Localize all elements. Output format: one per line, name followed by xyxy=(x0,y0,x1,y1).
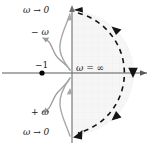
label-omega-to-zero-bottom: ω → 0 xyxy=(23,128,49,137)
nyquist-contour-svg xyxy=(0,0,157,148)
label-omega-equals-infinity: ω = ∞ xyxy=(76,64,104,73)
label-minus-one: −1 xyxy=(35,61,48,70)
label-minus-omega: − ω xyxy=(31,28,49,37)
nyquist-contour-figure: ω → 0 − ω −1 ω = ∞ + ω ω → 0 xyxy=(0,0,157,148)
minus-one-point-marker xyxy=(39,70,44,75)
contour-imaginary-lower xyxy=(60,78,73,136)
label-plus-omega: + ω xyxy=(31,108,49,117)
real-axis-arrowhead xyxy=(140,70,147,76)
label-omega-to-zero-top: ω → 0 xyxy=(23,6,49,15)
imaginary-axis-arrowhead xyxy=(69,5,75,12)
